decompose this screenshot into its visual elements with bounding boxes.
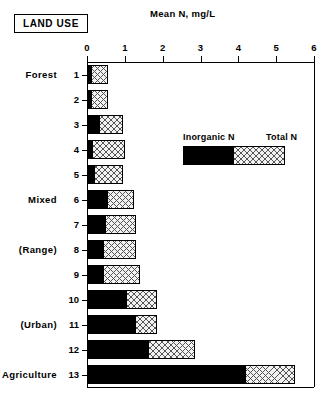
bar-inorganic-n <box>87 215 106 234</box>
row-number-3: 3 <box>61 119 79 130</box>
bar-row <box>87 312 314 337</box>
bar-row <box>87 287 314 312</box>
bar-inorganic-n <box>87 190 108 209</box>
bar-inorganic-n <box>87 240 104 259</box>
y-tick-1 <box>82 75 87 76</box>
row-number-7: 7 <box>61 219 79 230</box>
bar-inorganic-n <box>87 340 149 359</box>
y-tick-3 <box>82 125 87 126</box>
x-tick-label-3: 3 <box>198 42 203 53</box>
x-tick-label-5: 5 <box>274 42 279 53</box>
legend-label-total: Total N <box>266 132 297 142</box>
y-tick-5 <box>82 175 87 176</box>
row-category-range: (Range) <box>0 244 57 255</box>
axis-bottom-spine <box>87 387 314 388</box>
bar-row <box>87 212 314 237</box>
bar-inorganic-n <box>87 290 127 309</box>
bar-row <box>87 187 314 212</box>
bar-inorganic-n <box>87 65 92 84</box>
y-tick-12 <box>82 350 87 351</box>
y-tick-7 <box>82 225 87 226</box>
row-number-12: 12 <box>61 344 79 355</box>
axis-right-spine <box>314 62 315 387</box>
bar-inorganic-n <box>87 115 100 134</box>
x-tick-label-1: 1 <box>122 42 127 53</box>
y-tick-6 <box>82 200 87 201</box>
land-use-badge: LAND USE <box>14 14 88 33</box>
row-category-mixed: Mixed <box>0 194 57 205</box>
row-number-5: 5 <box>61 169 79 180</box>
bar-inorganic-n <box>87 90 92 109</box>
y-tick-13 <box>82 375 87 376</box>
row-category-agriculture: Agriculture <box>0 369 57 380</box>
y-tick-9 <box>82 275 87 276</box>
bar-row <box>87 362 314 387</box>
x-tick-6 <box>314 56 315 62</box>
chart-figure: LAND USE Mean N, mg/L 0123456 1Forest234… <box>0 0 334 397</box>
bar-row <box>87 162 314 187</box>
bar-inorganic-n <box>87 365 246 384</box>
y-tick-2 <box>82 100 87 101</box>
chart-title: Mean N, mg/L <box>150 8 215 19</box>
row-number-6: 6 <box>61 194 79 205</box>
x-tick-label-2: 2 <box>160 42 165 53</box>
row-category-urban: (Urban) <box>0 319 57 330</box>
legend-swatch-inorganic <box>183 146 233 165</box>
row-number-1: 1 <box>61 69 79 80</box>
row-number-11: 11 <box>61 319 79 330</box>
y-tick-4 <box>82 150 87 151</box>
bar-row <box>87 87 314 112</box>
x-tick-label-4: 4 <box>236 42 241 53</box>
row-number-9: 9 <box>61 269 79 280</box>
bar-inorganic-n <box>87 140 93 159</box>
y-tick-11 <box>82 325 87 326</box>
x-tick-label-6: 6 <box>311 42 316 53</box>
row-number-10: 10 <box>61 294 79 305</box>
bar-row <box>87 62 314 87</box>
y-tick-8 <box>82 250 87 251</box>
bar-inorganic-n <box>87 265 104 284</box>
y-tick-10 <box>82 300 87 301</box>
row-category-forest: Forest <box>0 69 57 80</box>
bar-row <box>87 337 314 362</box>
row-number-13: 13 <box>61 369 79 380</box>
row-number-8: 8 <box>61 244 79 255</box>
bar-inorganic-n <box>87 165 95 184</box>
bar-row <box>87 237 314 262</box>
bar-row <box>87 262 314 287</box>
legend-swatch-total <box>233 146 285 165</box>
legend-label-inorganic: Inorganic N <box>183 132 235 142</box>
plot-area: 0123456 <box>87 62 314 387</box>
x-tick-label-0: 0 <box>84 42 89 53</box>
row-number-2: 2 <box>61 94 79 105</box>
bar-inorganic-n <box>87 315 136 334</box>
row-number-4: 4 <box>61 144 79 155</box>
